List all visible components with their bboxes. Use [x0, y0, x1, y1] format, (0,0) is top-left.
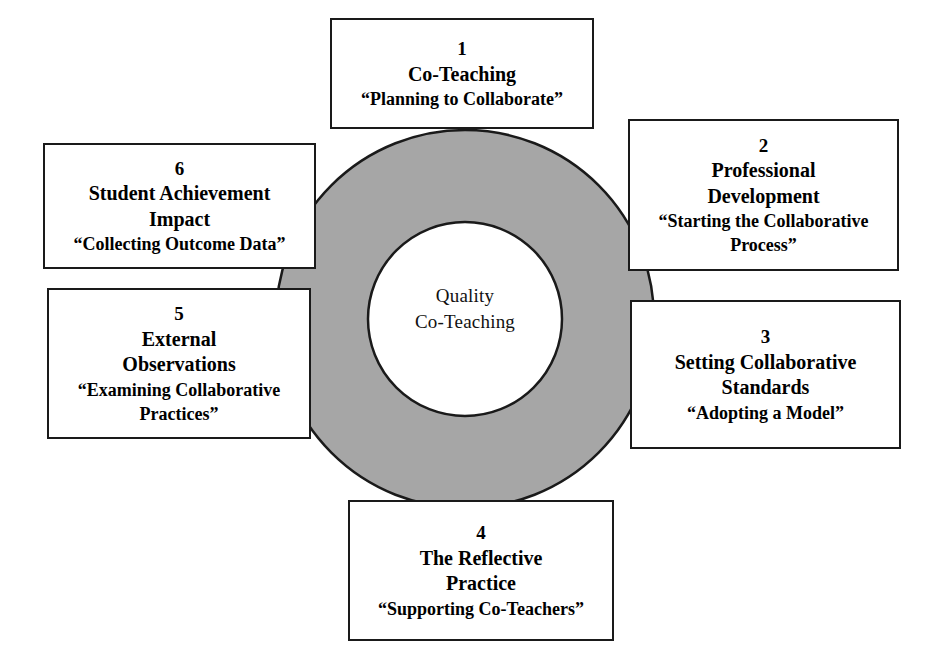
step-1-subtitle-line-1: “Planning to Collaborate”	[361, 88, 563, 111]
step-5-title-line-1: External	[142, 327, 216, 353]
step-4-subtitle-line-1: “Supporting Co-Teachers”	[378, 598, 584, 621]
center-hub-line-1: Quality	[368, 283, 562, 309]
step-2-subtitle-line-1: “Starting the Collaborative	[659, 210, 869, 233]
step-2-number: 2	[759, 133, 769, 159]
step-box-1[interactable]: 1 Co-Teaching “Planning to Collaborate”	[330, 18, 594, 129]
step-2-title-line-1: Professional	[711, 158, 815, 184]
step-6-title-line-2: Impact	[149, 207, 210, 233]
step-3-title-line-1: Setting Collaborative	[675, 350, 857, 376]
step-2-title-line-2: Development	[707, 184, 819, 210]
step-5-title-line-2: Observations	[122, 352, 235, 378]
step-5-subtitle-line-1: “Examining Collaborative	[78, 379, 281, 402]
step-3-number: 3	[761, 324, 771, 350]
step-box-6[interactable]: 6 Student Achievement Impact “Collecting…	[43, 143, 316, 269]
step-1-number: 1	[457, 36, 467, 62]
step-2-subtitle-line-2: Process”	[730, 234, 797, 257]
step-box-2[interactable]: 2 Professional Development “Starting the…	[628, 119, 899, 271]
step-5-number: 5	[174, 301, 184, 327]
step-3-title-line-2: Standards	[722, 375, 810, 401]
center-hub-line-2: Co-Teaching	[368, 309, 562, 335]
step-6-number: 6	[175, 156, 185, 182]
diagram-canvas: Quality Co-Teaching 1 Co-Teaching “Plann…	[0, 0, 935, 670]
step-4-title-line-2: Practice	[446, 571, 516, 597]
step-box-5[interactable]: 5 External Observations “Examining Colla…	[47, 288, 311, 439]
step-6-subtitle-line-1: “Collecting Outcome Data”	[74, 233, 286, 256]
center-hub-label: Quality Co-Teaching	[368, 283, 562, 335]
step-5-subtitle-line-2: Practices”	[140, 403, 219, 426]
step-4-title-line-1: The Reflective	[420, 546, 543, 572]
step-4-number: 4	[476, 520, 486, 546]
step-3-subtitle-line-1: “Adopting a Model”	[687, 402, 844, 425]
step-box-3[interactable]: 3 Setting Collaborative Standards “Adopt…	[630, 300, 901, 449]
step-6-title-line-1: Student Achievement	[89, 181, 271, 207]
step-box-4[interactable]: 4 The Reflective Practice “Supporting Co…	[348, 500, 614, 641]
step-1-title-line-1: Co-Teaching	[408, 62, 516, 88]
